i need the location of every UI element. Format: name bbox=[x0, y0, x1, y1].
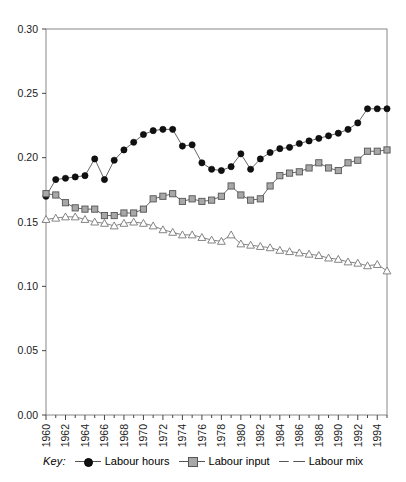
data-point-square bbox=[170, 191, 176, 197]
data-point-circle bbox=[209, 166, 215, 172]
legend-label-labour-hours: Labour hours bbox=[105, 455, 170, 467]
data-point-circle bbox=[238, 151, 244, 157]
data-point-square bbox=[72, 205, 78, 211]
data-point-circle bbox=[170, 126, 176, 132]
data-point-square bbox=[82, 206, 88, 212]
data-point-circle bbox=[277, 146, 283, 152]
data-point-square bbox=[277, 173, 283, 179]
data-point-circle bbox=[248, 166, 254, 172]
data-point-square bbox=[92, 206, 98, 212]
data-point-square bbox=[286, 170, 292, 176]
data-point-circle bbox=[257, 156, 263, 162]
y-tick-label: 0.15 bbox=[18, 216, 39, 228]
data-point-square bbox=[43, 191, 49, 197]
x-tick-label: 1974 bbox=[176, 424, 188, 448]
data-point-circle bbox=[267, 149, 273, 155]
x-tick-label: 1972 bbox=[157, 424, 169, 448]
legend-label-labour-mix: Labour mix bbox=[309, 455, 363, 467]
y-tick-label: 0.05 bbox=[18, 344, 39, 356]
data-point-circle bbox=[218, 167, 224, 173]
data-point-square bbox=[355, 157, 361, 163]
legend-key-label: Key: bbox=[43, 455, 66, 467]
data-point-circle bbox=[364, 106, 370, 112]
x-tick-label: 1980 bbox=[235, 424, 247, 448]
y-tick-label: 0.30 bbox=[18, 23, 39, 35]
data-point-circle bbox=[374, 106, 380, 112]
legend-entry-labour-hours: Labour hours bbox=[75, 455, 170, 467]
data-point-square bbox=[150, 196, 156, 202]
data-point-square bbox=[248, 197, 254, 203]
data-point-triangle bbox=[227, 231, 235, 238]
x-tick-label: 1970 bbox=[137, 424, 149, 448]
data-point-circle bbox=[189, 142, 195, 148]
chart-canvas: 0.000.050.100.150.200.250.30196019621964… bbox=[0, 0, 406, 482]
y-tick-label: 0.20 bbox=[18, 151, 39, 163]
data-point-square bbox=[131, 210, 137, 216]
data-point-circle bbox=[286, 144, 292, 150]
chart-figure: 0.000.050.100.150.200.250.30196019621964… bbox=[0, 0, 406, 482]
data-point-square bbox=[209, 197, 215, 203]
legend-entry-labour-mix: Labour mix bbox=[279, 455, 363, 467]
data-point-square bbox=[384, 147, 390, 153]
data-point-triangle bbox=[159, 226, 167, 233]
x-tick-label: 1984 bbox=[274, 424, 286, 448]
data-point-square bbox=[374, 148, 380, 154]
data-point-square bbox=[62, 200, 68, 206]
data-point-square bbox=[111, 212, 117, 218]
x-tick-label: 1988 bbox=[313, 424, 325, 448]
x-tick-label: 1986 bbox=[293, 424, 305, 448]
x-tick-label: 1990 bbox=[332, 424, 344, 448]
data-point-triangle bbox=[373, 261, 381, 268]
circle-marker-icon bbox=[75, 456, 101, 466]
chart-legend: Key: Labour hours Labour input Labour mi… bbox=[0, 450, 406, 472]
data-point-circle bbox=[140, 131, 146, 137]
data-point-square bbox=[257, 196, 263, 202]
data-point-circle bbox=[355, 120, 361, 126]
data-point-circle bbox=[179, 143, 185, 149]
data-point-square bbox=[325, 165, 331, 171]
data-point-square bbox=[199, 198, 205, 204]
data-point-circle bbox=[306, 138, 312, 144]
data-point-square bbox=[189, 196, 195, 202]
data-point-circle bbox=[384, 106, 390, 112]
x-tick-label: 1966 bbox=[98, 424, 110, 448]
data-point-circle bbox=[121, 147, 127, 153]
data-point-circle bbox=[335, 130, 341, 136]
data-point-circle bbox=[316, 135, 322, 141]
series-line bbox=[46, 109, 387, 197]
legend-label-labour-input: Labour input bbox=[209, 455, 270, 467]
data-point-circle bbox=[131, 139, 137, 145]
x-tick-label: 1978 bbox=[215, 424, 227, 448]
data-point-triangle bbox=[188, 231, 196, 238]
x-tick-label: 1992 bbox=[352, 424, 364, 448]
x-tick-label: 1976 bbox=[196, 424, 208, 448]
data-point-square bbox=[335, 167, 341, 173]
data-point-square bbox=[364, 148, 370, 154]
data-point-square bbox=[218, 193, 224, 199]
data-point-square bbox=[179, 198, 185, 204]
data-point-circle bbox=[199, 160, 205, 166]
triangle-marker-icon bbox=[279, 456, 305, 466]
data-point-triangle bbox=[383, 267, 391, 274]
x-tick-label: 1982 bbox=[254, 424, 266, 448]
data-point-square bbox=[140, 206, 146, 212]
data-point-square bbox=[345, 160, 351, 166]
data-point-circle bbox=[296, 140, 302, 146]
data-point-circle bbox=[150, 128, 156, 134]
y-tick-label: 0.25 bbox=[18, 87, 39, 99]
data-point-circle bbox=[92, 156, 98, 162]
data-point-circle bbox=[228, 164, 234, 170]
data-point-circle bbox=[101, 176, 107, 182]
x-tick-label: 1968 bbox=[118, 424, 130, 448]
data-point-square bbox=[121, 210, 127, 216]
data-point-square bbox=[267, 183, 273, 189]
data-point-square bbox=[160, 193, 166, 199]
square-marker-icon bbox=[179, 456, 205, 466]
data-point-circle bbox=[62, 175, 68, 181]
data-point-square bbox=[53, 192, 59, 198]
data-point-circle bbox=[345, 126, 351, 132]
data-point-square bbox=[296, 169, 302, 175]
data-point-circle bbox=[72, 174, 78, 180]
data-point-square bbox=[316, 160, 322, 166]
x-tick-label: 1962 bbox=[59, 424, 71, 448]
